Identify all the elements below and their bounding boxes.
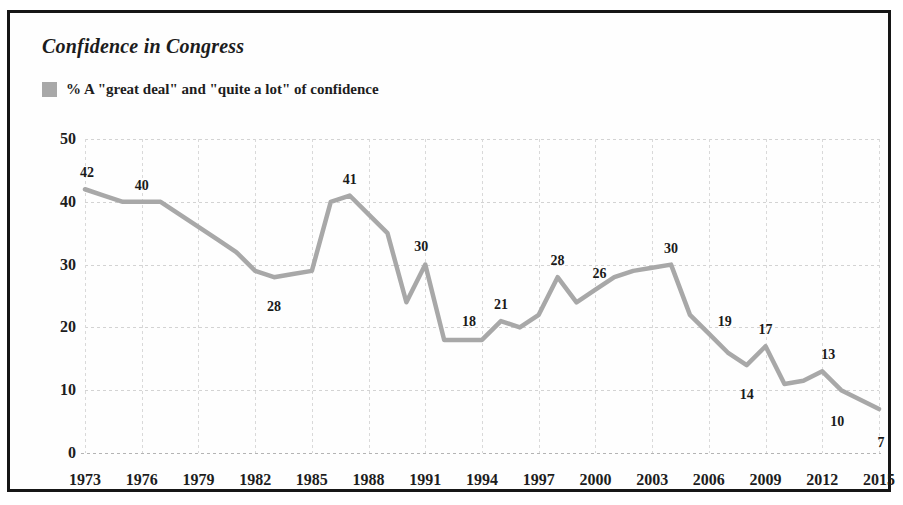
point-label-2004: 30 bbox=[664, 241, 678, 257]
legend-color-swatch bbox=[42, 82, 57, 97]
legend-label: % A "great deal" and "quite a lot" of co… bbox=[66, 81, 379, 98]
x-tick-label-1994: 1994 bbox=[466, 471, 498, 489]
chart-figure: Confidence in Congress % A "great deal" … bbox=[7, 10, 891, 492]
x-tick-label-1985: 1985 bbox=[296, 471, 328, 489]
point-label-1993: 18 bbox=[462, 314, 476, 330]
x-tick-label-1973: 1973 bbox=[69, 471, 101, 489]
point-label-1976: 40 bbox=[135, 178, 149, 194]
chart-title: Confidence in Congress bbox=[42, 35, 244, 58]
point-label-2015: 7 bbox=[878, 435, 885, 451]
x-tick-label-1982: 1982 bbox=[239, 471, 271, 489]
x-tick-label-1979: 1979 bbox=[182, 471, 214, 489]
point-label-2013: 10 bbox=[830, 414, 844, 430]
x-tick-label-2015: 2015 bbox=[863, 471, 895, 489]
point-label-1983: 28 bbox=[267, 299, 281, 315]
y-tick-label-40: 40 bbox=[60, 192, 76, 210]
point-label-1995: 21 bbox=[494, 297, 508, 313]
plot-area: 01020304050 1973197619791982198519881991… bbox=[85, 139, 879, 453]
y-tick-label-10: 10 bbox=[60, 381, 76, 399]
point-label-2006: 19 bbox=[718, 314, 732, 330]
point-label-1973: 42 bbox=[80, 165, 94, 181]
x-tick-label-1991: 1991 bbox=[409, 471, 441, 489]
line-series bbox=[85, 139, 879, 453]
point-label-1991: 30 bbox=[414, 239, 428, 255]
point-label-2000: 26 bbox=[592, 266, 606, 282]
y-tick-label-30: 30 bbox=[60, 255, 76, 273]
x-tick-label-1997: 1997 bbox=[523, 471, 555, 489]
chart-legend: % A "great deal" and "quite a lot" of co… bbox=[42, 81, 379, 98]
y-tick-label-0: 0 bbox=[68, 444, 76, 462]
point-label-1998: 28 bbox=[551, 253, 565, 269]
point-label-2008: 14 bbox=[740, 387, 754, 403]
point-label-2009: 17 bbox=[759, 322, 773, 338]
x-tick-label-2012: 2012 bbox=[806, 471, 838, 489]
x-tick-label-1988: 1988 bbox=[353, 471, 385, 489]
point-label-1987: 41 bbox=[343, 172, 357, 188]
gridline-x-2015 bbox=[879, 139, 880, 453]
x-tick-label-2009: 2009 bbox=[750, 471, 782, 489]
x-tick-label-2003: 2003 bbox=[636, 471, 668, 489]
y-tick-label-20: 20 bbox=[60, 318, 76, 336]
x-tick-label-1976: 1976 bbox=[126, 471, 158, 489]
point-label-2012: 13 bbox=[821, 347, 835, 363]
x-tick-label-2006: 2006 bbox=[693, 471, 725, 489]
x-tick-label-2000: 2000 bbox=[579, 471, 611, 489]
x-axis-line bbox=[81, 453, 881, 454]
y-tick-label-50: 50 bbox=[60, 130, 76, 148]
